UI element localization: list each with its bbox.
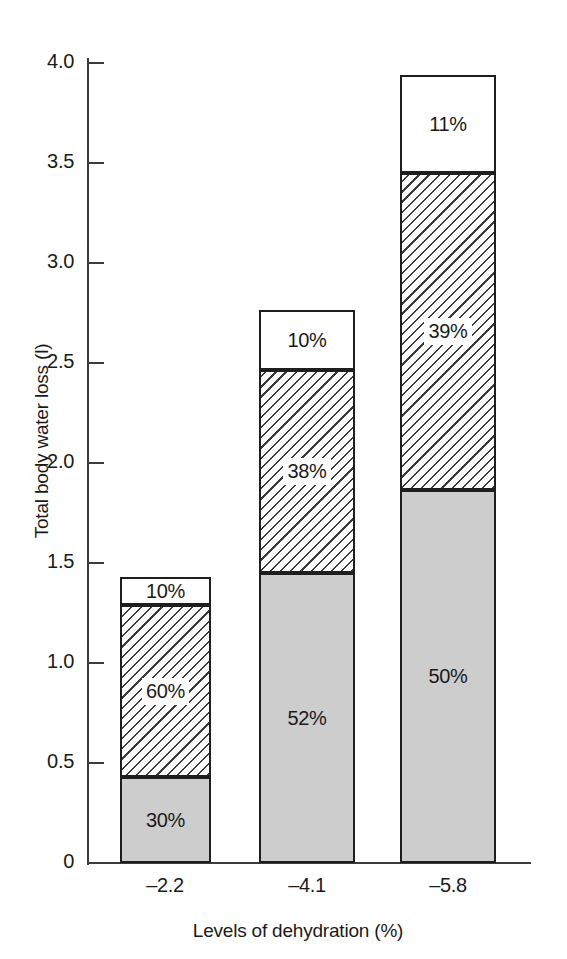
bar-segment-top[interactable]: 11%: [400, 75, 496, 173]
bar-segment-label: 10%: [144, 580, 187, 603]
table-row[interactable]: 10% 38% 52%: [259, 310, 355, 863]
table-row[interactable]: 10% 60% 30%: [120, 577, 211, 863]
bar-segment-bottom[interactable]: 50%: [400, 490, 496, 863]
x-tick-label-1: –2.2: [95, 874, 235, 897]
bar-segment-label: 38%: [285, 460, 328, 483]
bar-segment-label: 10%: [285, 329, 328, 352]
bar-segment-label: 39%: [426, 320, 469, 343]
bar-segment-middle[interactable]: 60%: [120, 605, 211, 777]
bar-segment-bottom[interactable]: 30%: [120, 777, 211, 863]
bar-segment-top[interactable]: 10%: [259, 310, 355, 370]
bars-layer: 10% 60% 30% 10% 38% 52% 11%: [0, 0, 567, 959]
bar-segment-top[interactable]: 10%: [120, 577, 211, 605]
bar-segment-label: 50%: [426, 665, 469, 688]
bar-segment-middle[interactable]: 39%: [400, 173, 496, 490]
x-axis-title: Levels of dehydration (%): [88, 920, 508, 942]
bar-segment-label: 11%: [427, 113, 469, 136]
x-tick-label-2: –4.1: [237, 874, 377, 897]
bar-segment-label: 60%: [144, 680, 187, 703]
bar-segment-bottom[interactable]: 52%: [259, 573, 355, 863]
bar-segment-label: 30%: [144, 809, 187, 832]
bar-segment-middle[interactable]: 38%: [259, 370, 355, 573]
x-tick-label-3: –5.8: [378, 874, 518, 897]
table-row[interactable]: 11% 39% 50%: [400, 75, 496, 863]
bar-segment-label: 52%: [285, 707, 328, 730]
stacked-bar-chart: Total body water loss (l) 4.0 3.5 3.0 2.…: [0, 0, 567, 959]
